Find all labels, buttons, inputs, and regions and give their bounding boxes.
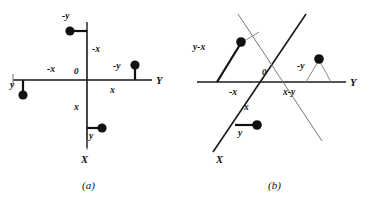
panel-a: -y -x -x 0 y -y x x y Y X (a): [0, 0, 191, 199]
panel-b-right-dot: [314, 54, 324, 64]
panel-a-label-bottom-dot: y: [88, 131, 94, 141]
panel-a-label-horizontal-axis: Y: [156, 75, 164, 86]
panel-a-bottom-dot: [97, 123, 106, 132]
panel-b-oblique-axis: [213, 14, 306, 152]
panel-a-top-dot: [65, 26, 74, 35]
panel-b-upper-left-dot: [236, 37, 246, 47]
panel-a-label-right-dot: -y: [113, 61, 121, 71]
panel-a-label-upper-vertical: -x: [92, 44, 100, 54]
panel-a-label-lower-vertical: x: [73, 102, 79, 112]
panel-b-label-upper-left-vector: y-x: [192, 42, 205, 52]
panel-a-caption: (a): [82, 179, 95, 192]
panel-b-label-bottom-dot: y: [237, 128, 243, 138]
panel-b-label-right-horizontal: x-y: [282, 87, 296, 97]
panel-b-label-horizontal-axis: Y: [350, 77, 358, 88]
panel-a-diagram: -y -x -x 0 y -y x x y Y X (a): [0, 0, 191, 199]
panel-b-diagram: y-x 0 -x x-y -y x y Y X (b): [191, 0, 382, 199]
panel-a-right-dot: [130, 60, 139, 69]
panel-b-construction-line: [238, 14, 322, 141]
panel-b-label-left-horizontal: -x: [229, 87, 237, 97]
panel-b-label-right-dot: -y: [297, 61, 305, 71]
panel-a-label-right-horizontal: x: [109, 85, 115, 95]
panel-a-label-origin: 0: [74, 66, 79, 76]
panel-b-upper-left-vector: [217, 43, 241, 82]
panel-b: y-x 0 -x x-y -y x y Y X (b): [191, 0, 382, 199]
panel-a-label-left-dot: y: [9, 80, 15, 90]
panel-b-label-oblique-axis: X: [215, 154, 224, 165]
panel-a-label-vertical-axis: X: [80, 154, 89, 165]
panel-a-label-left-horizontal: -x: [47, 64, 55, 74]
panel-a-label-top-dot: -y: [62, 11, 70, 21]
panel-a-left-dot: [18, 90, 27, 99]
panel-b-caption: (b): [268, 179, 281, 192]
panel-b-label-lower-oblique: x: [243, 102, 249, 112]
panel-b-bottom-dot: [252, 120, 262, 130]
panel-b-label-origin: 0: [262, 67, 267, 77]
figure-root: -y -x -x 0 y -y x x y Y X (a): [0, 0, 382, 199]
